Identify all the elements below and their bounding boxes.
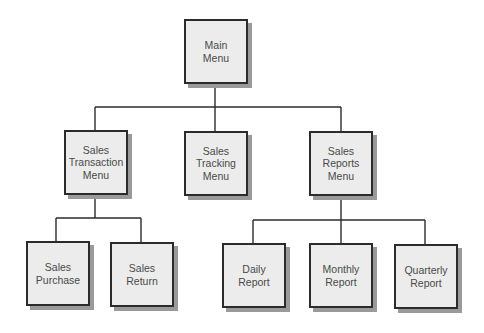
- node-label: Monthly Report: [323, 263, 360, 288]
- node-daily-report: Daily Report: [222, 243, 286, 308]
- node-label: Sales Reports Menu: [323, 145, 360, 183]
- node-label: Sales Tracking Menu: [196, 145, 236, 183]
- node-sales-purchase: Sales Purchase: [26, 241, 90, 306]
- node-label: Sales Transaction Menu: [69, 144, 123, 182]
- node-sales-transaction-menu: Sales Transaction Menu: [64, 130, 128, 195]
- node-monthly-report: Monthly Report: [309, 243, 373, 308]
- node-label: Daily Report: [238, 263, 270, 288]
- node-label: Main Menu: [203, 39, 229, 64]
- node-main-menu: Main Menu: [184, 19, 248, 84]
- node-quarterly-report: Quarterly Report: [394, 244, 458, 309]
- node-sales-tracking-menu: Sales Tracking Menu: [184, 131, 248, 196]
- node-label: Quarterly Report: [404, 264, 447, 289]
- hierarchy-diagram: Main Menu Sales Transaction Menu Sales T…: [0, 0, 484, 333]
- node-label: Sales Return: [126, 262, 158, 287]
- node-sales-reports-menu: Sales Reports Menu: [309, 131, 373, 196]
- node-label: Sales Purchase: [36, 261, 80, 286]
- node-sales-return: Sales Return: [110, 242, 174, 307]
